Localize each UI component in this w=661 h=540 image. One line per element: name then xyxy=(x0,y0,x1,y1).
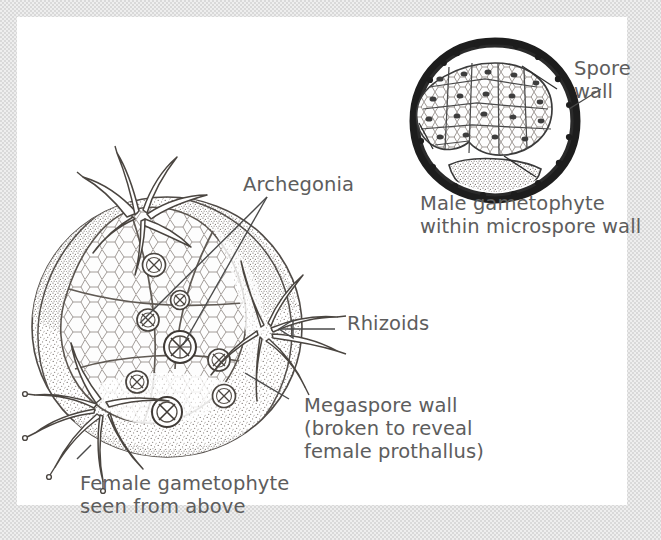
figure-container: Spore wall Male gametophyte within micro… xyxy=(0,0,661,540)
archegonium xyxy=(208,349,230,371)
label-male-gametophyte: Male gametophyte within microspore wall xyxy=(420,192,641,238)
label-female-gametophyte: Female gametophyte seen from above xyxy=(80,472,289,518)
archegonium xyxy=(213,385,236,408)
illustration-panel: Spore wall Male gametophyte within micro… xyxy=(17,17,627,505)
archegonium xyxy=(137,309,159,331)
archegonium xyxy=(126,371,148,393)
male-gametophyte-drawing xyxy=(414,42,576,199)
label-spore-wall: Spore wall xyxy=(574,57,631,103)
label-archegonia: Archegonia xyxy=(243,173,354,196)
label-megaspore-wall: Megaspore wall (broken to reveal female … xyxy=(304,394,484,463)
leader-female-caption xyxy=(77,445,91,459)
archegonium xyxy=(171,291,190,310)
female-gametophyte-drawing xyxy=(23,146,346,493)
archegonium-large xyxy=(164,331,196,363)
label-rhizoids: Rhizoids xyxy=(347,312,429,335)
archegonium xyxy=(143,254,166,277)
